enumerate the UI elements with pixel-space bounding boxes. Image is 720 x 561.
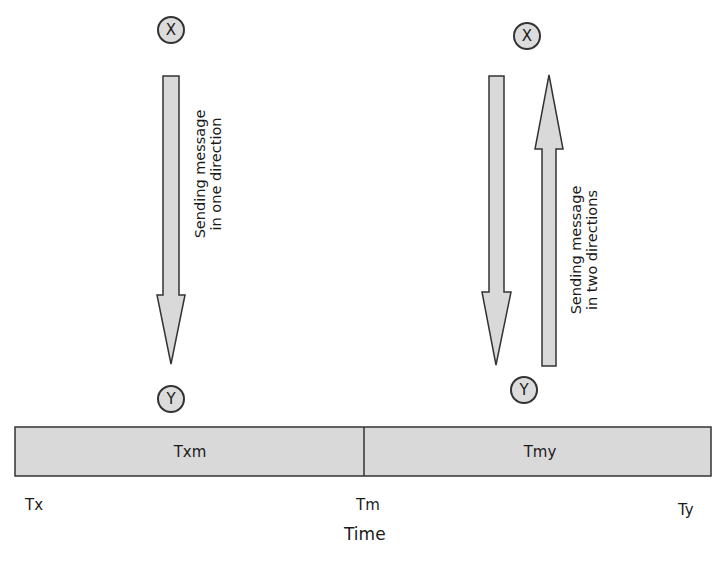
node-label: Y bbox=[166, 390, 175, 408]
node-label: Y bbox=[519, 381, 528, 399]
node-y-right: Y bbox=[510, 376, 538, 404]
node-label: X bbox=[522, 27, 532, 45]
label-line: in one direction bbox=[208, 110, 224, 239]
tick-ty: Ty bbox=[678, 501, 694, 519]
label-line: in two directions bbox=[584, 186, 600, 315]
label-one-direction: Sending message in one direction bbox=[192, 110, 224, 239]
node-y-left: Y bbox=[157, 385, 185, 413]
label-line: Sending message bbox=[192, 110, 208, 239]
node-label: X bbox=[166, 21, 176, 39]
tick-tx: Tx bbox=[25, 496, 43, 514]
timeline-bar bbox=[15, 427, 711, 476]
node-x-left: X bbox=[157, 16, 185, 44]
diagram-canvas bbox=[0, 0, 720, 561]
label-line: Sending message bbox=[568, 186, 584, 315]
down-arrow-one-direction bbox=[157, 76, 185, 364]
label-two-directions: Sending message in two directions bbox=[568, 186, 600, 315]
tick-tm: Tm bbox=[356, 496, 380, 514]
node-x-right: X bbox=[513, 22, 541, 50]
down-arrow-two-directions bbox=[482, 76, 511, 365]
axis-label-time: Time bbox=[344, 524, 386, 544]
segment-tmy: Tmy bbox=[524, 443, 557, 461]
up-arrow-two-directions bbox=[535, 75, 563, 366]
segment-txm: Txm bbox=[174, 443, 207, 461]
